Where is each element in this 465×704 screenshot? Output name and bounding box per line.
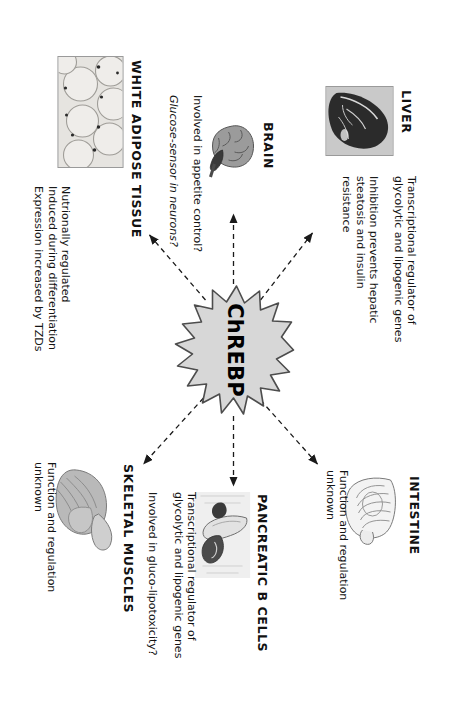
- adipocyte-micrograph-art: [57, 56, 123, 168]
- intestine-drawing-art: [342, 470, 402, 548]
- organ-node-liver[interactable]: LIVER: [325, 86, 413, 156]
- skeletal-muscles-notes: Function and regulation unknown: [30, 462, 57, 622]
- intestine-note-1: Function and regulation unknown: [322, 470, 349, 620]
- white-adipose-tissue-notes: Nutrionally regulated Induced during dif…: [31, 186, 71, 376]
- organ-label-brain: BRAIN: [260, 122, 275, 178]
- organ-node-intestine[interactable]: INTESTINE: [342, 470, 421, 555]
- liver-note-2: Inhibition prevents hepatic steatosis an…: [339, 176, 379, 346]
- organ-label-skeletal-muscles: SKELETAL MUSCLES: [120, 464, 135, 613]
- organ-label-pancreatic-b-cells: PANCREATIC B CELLS: [254, 494, 269, 652]
- organ-label-liver: LIVER: [398, 90, 413, 156]
- brain-drawing-art: [204, 120, 256, 178]
- starburst-shape: [173, 286, 295, 414]
- pancreatic-b-cells-notes: Transcriptional regulator of glycolytic …: [145, 492, 197, 668]
- brain-note-2: Glucose-sensor in neurons?: [165, 95, 178, 255]
- chrebp-starburst-node[interactable]: ChREBP: [173, 286, 295, 414]
- organ-node-brain[interactable]: BRAIN: [204, 120, 275, 178]
- skeletal-note-1: Function and regulation unknown: [30, 462, 57, 622]
- organ-node-skeletal-muscles[interactable]: SKELETAL MUSCLES: [46, 462, 135, 613]
- liver-photo-art: [325, 86, 393, 156]
- liver-notes: Transcriptional regulator of glycolytic …: [339, 176, 417, 346]
- organ-label-intestine: INTESTINE: [406, 476, 421, 555]
- intestine-notes: Function and regulation unknown: [322, 470, 349, 620]
- organ-label-white-adipose-tissue: WHITE ADIPOSE TISSUE: [128, 60, 143, 238]
- brain-notes: Involved in appetite control? Glucose-se…: [165, 95, 203, 255]
- pancreatic-note-2: Involved in gluco-lipotoxicity?: [145, 492, 158, 668]
- liver-note-1: Transcriptional regulator of glycolytic …: [390, 176, 417, 346]
- wat-note-1: Nutrionally regulated Induced during dif…: [31, 186, 71, 376]
- pancreatic-note-1: Transcriptional regulator of glycolytic …: [170, 492, 197, 668]
- brain-note-1: Involved in appetite control?: [190, 95, 203, 255]
- organ-node-pancreatic-b-cells[interactable]: PANCREATIC B CELLS: [194, 492, 269, 652]
- pancreas-photo-art: [194, 492, 250, 578]
- figure-canvas: ChREBP LIVER Transcriptional regulator o…: [0, 0, 465, 704]
